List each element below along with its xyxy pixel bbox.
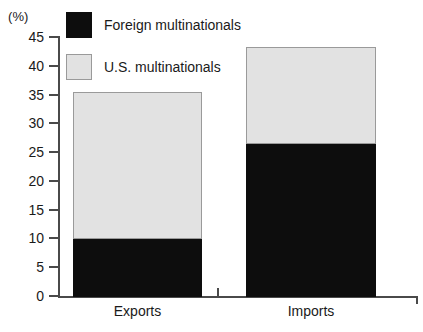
- x-axis-label-imports: Imports: [246, 303, 376, 319]
- legend-item-foreign-multinationals: Foreign multinationals: [66, 12, 241, 38]
- y-axis-tick: [49, 295, 60, 297]
- y-axis-tick: [49, 65, 60, 67]
- y-axis-tick-label: 40: [4, 59, 44, 73]
- y-axis-tick: [49, 266, 60, 268]
- y-axis-tick: [49, 237, 60, 239]
- y-axis-tick: [49, 36, 60, 38]
- bar-segment-foreign-multinationals: [73, 239, 202, 297]
- legend-item-us-multinationals: U.S. multinationals: [66, 54, 221, 80]
- bar-segment-foreign-multinationals: [246, 144, 376, 297]
- y-axis-tick: [49, 151, 60, 153]
- x-axis-label-exports: Exports: [73, 303, 202, 319]
- y-axis-tick-label: 15: [4, 203, 44, 217]
- y-axis-tick: [49, 94, 60, 96]
- y-axis-tick-label: 0: [4, 289, 44, 303]
- stacked-bar-chart: (%) 051015202530354045 ExportsImports Fo…: [0, 0, 423, 332]
- y-axis-tick-label: 10: [4, 231, 44, 245]
- y-axis-tick-label: 30: [4, 116, 44, 130]
- y-axis-tick-label: 5: [4, 260, 44, 274]
- legend-label: U.S. multinationals: [104, 59, 221, 75]
- y-axis-tick: [49, 122, 60, 124]
- y-axis-tick: [49, 209, 60, 211]
- legend-swatch-dark-icon: [66, 12, 92, 38]
- y-axis-tick-label: 35: [4, 88, 44, 102]
- bar-segment-u-s-multinationals: [246, 47, 376, 145]
- y-axis-tick: [49, 180, 60, 182]
- y-axis-tick-label: 45: [4, 30, 44, 44]
- y-axis-unit-label: (%): [8, 10, 29, 24]
- bar-segment-u-s-multinationals: [73, 92, 202, 239]
- legend-label: Foreign multinationals: [104, 17, 241, 33]
- x-axis-end-tick: [416, 296, 418, 304]
- legend-swatch-light-icon: [66, 54, 92, 80]
- y-axis-tick-label: 20: [4, 174, 44, 188]
- bar-group-imports: [246, 38, 376, 297]
- y-axis-tick-label: 25: [4, 145, 44, 159]
